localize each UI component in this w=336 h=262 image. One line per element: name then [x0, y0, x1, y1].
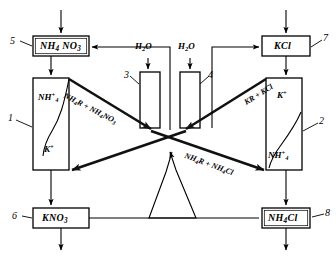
- ref-number-7: 7: [323, 33, 328, 43]
- thick-streams-layer: [69, 79, 266, 170]
- process-flow-diagram: NH4 NO3 KCl KNO3 NH4Cl NH+4 K+ K+ NH+4 H…: [0, 0, 336, 262]
- ref-number-6: 6: [12, 211, 17, 221]
- ref-number-1: 1: [8, 113, 13, 123]
- thin-lines-layer: [51, 10, 286, 250]
- column-2-bottom-label: NH+4: [268, 150, 288, 161]
- column-3-body: [140, 72, 160, 128]
- box-label-kcl: KCl: [274, 41, 291, 51]
- column-4-body: [180, 72, 200, 128]
- leader-ref-8: [312, 214, 324, 217]
- box-label-nh4no3: NH4 NO3: [40, 41, 81, 53]
- column-1-top-label: NH+4: [38, 92, 58, 103]
- boxes-layer: [33, 36, 310, 228]
- ref-number-4: 4: [208, 70, 213, 80]
- leader-ref-2: [303, 123, 318, 131]
- leader-ref-5: [20, 41, 32, 46]
- ref-number-3: 3: [124, 70, 129, 80]
- leader-ref-7: [311, 40, 322, 47]
- ref-number-8: 8: [325, 208, 330, 218]
- stream-kr-kcl: [186, 79, 266, 129]
- leader-ref-1: [16, 120, 32, 127]
- crossing-line-kno3-to-column4: [89, 152, 196, 218]
- leader-ref-6: [22, 216, 32, 218]
- water-inlet-label-2: H2O: [178, 42, 195, 52]
- box-label-nh4cl: NH4Cl: [268, 213, 298, 225]
- leader-ref-3: [130, 76, 139, 84]
- box-label-kno3: KNO3: [42, 213, 68, 225]
- column-2-top-label: K+: [277, 90, 287, 100]
- ref-number-5: 5: [10, 36, 15, 46]
- ref-number-2: 2: [319, 116, 324, 126]
- column-1-bottom-label: K+: [44, 144, 54, 154]
- water-inlet-label-1: H2O: [135, 42, 152, 52]
